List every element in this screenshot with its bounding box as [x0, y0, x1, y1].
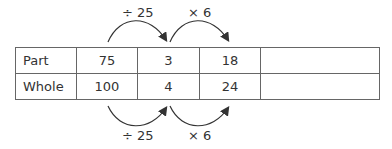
row-header: Whole: [16, 74, 77, 100]
table-cell: 75: [77, 48, 138, 74]
table-cell: [261, 74, 380, 100]
bottom-arrow-1: [108, 106, 166, 126]
table-cell: 4: [138, 74, 200, 100]
table-cell: 18: [200, 48, 261, 74]
table-cell: [261, 48, 380, 74]
bottom-op-label-2: × 6: [188, 128, 211, 143]
table-cell: 24: [200, 74, 261, 100]
table-cell: 3: [138, 48, 200, 74]
top-arrow-2: [170, 21, 228, 42]
ratio-table: Part 75 3 18 Whole 100 4 24: [15, 47, 380, 100]
bottom-op-label-1: ÷ 25: [122, 128, 154, 143]
table-cell: 100: [77, 74, 138, 100]
table-row-whole: Whole 100 4 24: [16, 74, 380, 100]
table-row-part: Part 75 3 18: [16, 48, 380, 74]
top-arrow-1: [108, 21, 166, 42]
top-op-label-1: ÷ 25: [122, 5, 154, 20]
row-header: Part: [16, 48, 77, 74]
top-op-label-2: × 6: [188, 5, 211, 20]
bottom-arrow-2: [170, 106, 228, 126]
